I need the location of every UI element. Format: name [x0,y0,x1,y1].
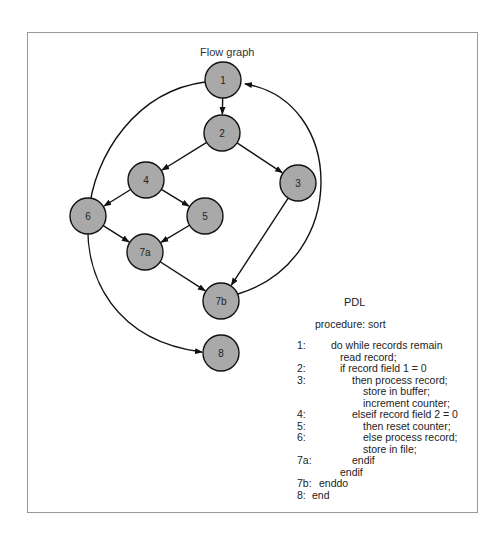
node-2: 2 [204,115,240,151]
svg-text:6: 6 [85,211,91,222]
pdl-line-text: elseif record field 2 = 0 [352,409,458,421]
svg-text:2: 2 [219,128,225,139]
pdl-line-text: enddo [319,478,348,490]
pdl-line-text: store in buffer; [363,386,430,398]
pdl-line: 4:elseif record field 2 = 0 [297,409,458,421]
pdl-line-number: 8: [297,490,312,502]
pdl-listing: 1:do while records remainread record;2:i… [297,340,458,501]
pdl-line: store in buffer; [297,386,458,398]
pdl-line-number: 7a: [297,455,352,467]
svg-text:5: 5 [202,211,208,222]
node-1: 1 [205,62,241,98]
pdl-line-number: 5: [297,421,363,433]
pdl-line: 8:end [297,490,458,502]
svg-text:7a: 7a [139,247,151,258]
svg-text:7b: 7b [215,296,227,307]
pdl-title: PDL [344,296,365,308]
edge-2-4 [162,142,207,170]
node-7b: 7b [203,283,239,319]
pdl-line: 6:else process record; [297,432,458,444]
node-7a: 7a [127,234,163,270]
pdl-line: 7a:endif [297,455,458,467]
svg-text:3: 3 [295,178,301,189]
edge-7a-7b [160,262,205,291]
pdl-line-number: 7b: [297,478,319,490]
pdl-line-number: 6: [297,432,363,444]
edge-4-6 [104,189,131,205]
edge-4-5 [161,189,188,206]
pdl-line-number [297,386,363,398]
pdl-line-number: 2: [297,363,340,375]
pdl-line-number: 4: [297,409,352,421]
pdl-line: store in file; [297,444,458,456]
node-8: 8 [203,335,239,371]
node-4: 4 [128,162,164,198]
pdl-line-text: else process record; [363,432,458,444]
svg-text:1: 1 [220,75,226,86]
node-6: 6 [70,198,106,234]
procedure-name: procedure: sort [315,318,386,330]
pdl-line-text: if record field 1 = 0 [340,363,427,375]
pdl-line-number: 1: [297,340,331,352]
edge-6-7a [103,226,129,242]
pdl-line: 2:if record field 1 = 0 [297,363,458,375]
flow-graph-title: Flow graph [200,46,254,58]
edge-5-7a [161,225,189,242]
pdl-line-text: do while records remain [331,340,442,352]
pdl-line-number: 3: [297,375,352,387]
pdl-line: 1:do while records remain [297,340,458,352]
pdl-line: 7b:enddo [297,478,458,490]
pdl-line-text: endif [352,455,375,467]
svg-text:8: 8 [218,348,224,359]
svg-text:4: 4 [143,175,149,186]
edge-2-3 [237,143,282,173]
node-3: 3 [280,165,316,201]
pdl-line-text: end [312,490,330,502]
node-5: 5 [187,198,223,234]
